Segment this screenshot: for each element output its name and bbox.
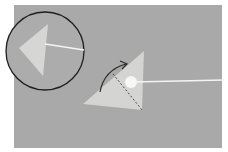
bead [125, 76, 137, 88]
inset-detail [6, 12, 84, 90]
main-triangle-group [83, 51, 224, 110]
string [133, 80, 224, 82]
instruction-illustration [0, 0, 228, 152]
